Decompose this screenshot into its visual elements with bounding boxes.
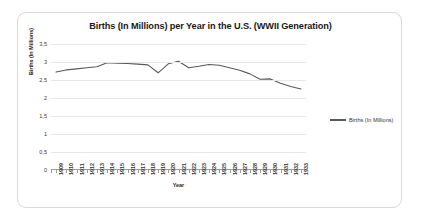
- x-axis-tick-mark: [184, 170, 185, 173]
- x-axis-tick-mark: [102, 170, 103, 173]
- y-axis-tick-label: 1: [21, 131, 47, 137]
- x-axis-tick-label: 1931: [283, 163, 289, 175]
- y-axis-tick-label: 2: [21, 95, 47, 101]
- x-axis-tick-mark: [209, 170, 210, 173]
- x-axis-tick-label: 1909: [58, 163, 64, 175]
- x-axis-tick-mark: [296, 170, 297, 173]
- x-axis-tick-mark: [204, 170, 205, 173]
- x-axis-tick-mark: [82, 170, 83, 173]
- gridline: [51, 44, 306, 45]
- x-axis-tick-mark: [97, 170, 98, 173]
- x-axis-tick-mark: [112, 170, 113, 173]
- x-axis-tick-mark: [230, 170, 231, 173]
- x-axis-tick-label: 1927: [242, 163, 248, 175]
- gridline: [51, 152, 306, 153]
- x-axis-tick-label: 1918: [150, 163, 156, 175]
- x-axis-tick-mark: [128, 170, 129, 173]
- x-axis-tick-mark: [71, 170, 72, 173]
- x-axis-tick-mark: [286, 170, 287, 173]
- x-axis-tick-mark: [265, 170, 266, 173]
- gridline: [51, 98, 306, 99]
- y-axis-tick-label: 3,5: [21, 41, 47, 47]
- x-axis-tick-label: 1912: [89, 163, 95, 175]
- x-axis-tick-mark: [301, 170, 302, 173]
- x-axis-tick-mark: [56, 170, 57, 173]
- x-axis-tick-mark: [153, 170, 154, 173]
- x-axis-tick-label: 1913: [99, 163, 105, 175]
- x-axis-tick-mark: [92, 170, 93, 173]
- x-axis-tick-mark: [173, 170, 174, 173]
- legend-line-swatch: [330, 119, 346, 121]
- x-axis-tick-mark: [122, 170, 123, 173]
- x-axis-tick-mark: [245, 170, 246, 173]
- y-axis-tick-label: 1,5: [21, 113, 47, 119]
- x-axis-tick-label: 1920: [170, 163, 176, 175]
- x-axis-tick-mark: [291, 170, 292, 173]
- chart-card: Births (In Millions) per Year in the U.S…: [17, 12, 402, 208]
- x-axis-tick-mark: [51, 170, 52, 173]
- x-axis-tick-mark: [275, 170, 276, 173]
- x-axis-tick-mark: [163, 170, 164, 173]
- chart-title: Births (In Millions) per Year in the U.S…: [18, 21, 403, 31]
- x-axis-tick-mark: [240, 170, 241, 173]
- x-axis-tick-label: 1923: [201, 163, 207, 175]
- x-axis-tick-mark: [158, 170, 159, 173]
- x-axis-tick-label: 1910: [68, 163, 74, 175]
- gridline: [51, 134, 306, 135]
- x-axis-tick-mark: [235, 170, 236, 173]
- y-axis-tick-label: 0: [21, 167, 47, 173]
- x-axis-tick-mark: [199, 170, 200, 173]
- x-axis-tick-label: 1933: [303, 163, 309, 175]
- x-axis-tick-mark: [179, 170, 180, 173]
- y-axis-tick-label: 3: [21, 59, 47, 65]
- chart-legend: Births (In Millions): [330, 117, 393, 123]
- x-axis-tick-mark: [133, 170, 134, 173]
- x-axis-title: Year: [51, 182, 306, 188]
- y-axis-title: Births (In Millions): [28, 28, 34, 75]
- x-axis-tick-label: 1919: [160, 163, 166, 175]
- y-axis-tick-label: 0,5: [21, 149, 47, 155]
- x-axis-tick-label: 1926: [232, 163, 238, 175]
- x-axis-tick-mark: [214, 170, 215, 173]
- x-axis-tick-label: 1928: [252, 163, 258, 175]
- x-axis-tick-label: 1932: [293, 163, 299, 175]
- x-axis-tick-label: 1929: [262, 163, 268, 175]
- gridline: [51, 116, 306, 117]
- x-axis-tick-mark: [77, 170, 78, 173]
- x-axis-tick-mark: [107, 170, 108, 173]
- x-axis-tick-label: 1930: [272, 163, 278, 175]
- x-axis-tick-label: 1925: [221, 163, 227, 175]
- x-axis-tick-mark: [224, 170, 225, 173]
- x-axis-tick-label: 1915: [119, 163, 125, 175]
- x-axis-tick-mark: [281, 170, 282, 173]
- x-axis-tick-mark: [87, 170, 88, 173]
- x-axis-tick-label: 1922: [191, 163, 197, 175]
- gridline: [51, 80, 306, 81]
- x-axis-tick-label: 1924: [211, 163, 217, 175]
- x-axis-tick-mark: [194, 170, 195, 173]
- legend-label: Births (In Millions): [349, 117, 393, 123]
- x-axis-tick-mark: [260, 170, 261, 173]
- x-axis-tick-mark: [143, 170, 144, 173]
- x-axis-tick-label: 1916: [130, 163, 136, 175]
- x-axis-tick-label: 1917: [140, 163, 146, 175]
- x-axis-tick-mark: [250, 170, 251, 173]
- x-axis-tick-mark: [189, 170, 190, 173]
- x-axis-tick-mark: [61, 170, 62, 173]
- x-axis-tick-label: 1921: [181, 163, 187, 175]
- x-axis-tick-mark: [148, 170, 149, 173]
- x-axis-tick-mark: [255, 170, 256, 173]
- gridline: [51, 62, 306, 63]
- x-axis-tick-label: 1914: [109, 163, 115, 175]
- plot-area: [51, 44, 306, 170]
- y-axis-tick-label: 2,5: [21, 77, 47, 83]
- x-axis-tick-mark: [138, 170, 139, 173]
